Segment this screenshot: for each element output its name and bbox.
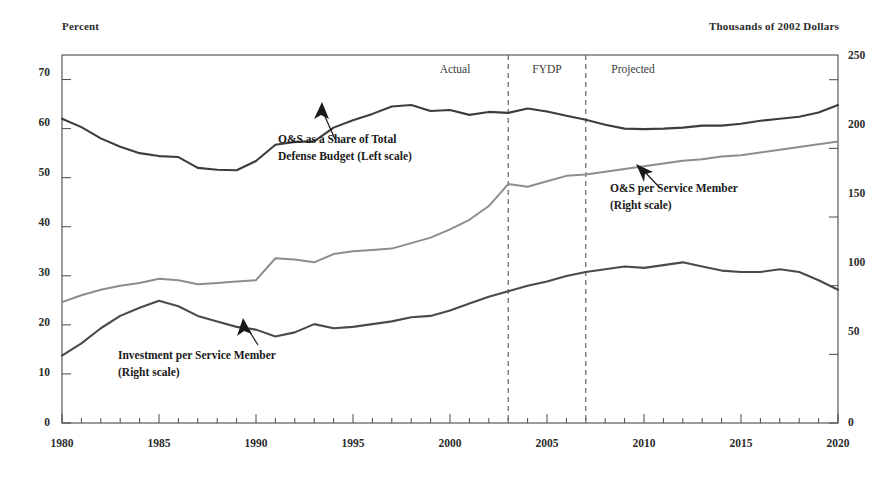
investment-per-member-annotation-line1: Investment per Service Member (118, 347, 276, 364)
series-o-s-per-service-member (62, 142, 838, 303)
plot-svg (0, 0, 891, 477)
os-per-member-annotation: O&S per Service Member (Right scale) (610, 180, 738, 214)
os-per-member-annotation-line2: (Right scale) (610, 197, 738, 214)
investment-per-member-annotation: Investment per Service Member (Right sca… (118, 347, 276, 381)
series-investment-per-service-member (62, 262, 838, 355)
investment-per-member-leader (237, 318, 258, 345)
series-lines (62, 105, 838, 356)
os-share-annotation-line2: Defense Budget (Left scale) (278, 148, 412, 165)
series-o-s-as-a-share-of-total-defense-budget (62, 105, 838, 170)
os-per-member-annotation-line1: O&S per Service Member (610, 180, 738, 197)
chart-figure: Percent Thousands of 2002 Dollars 70 60 … (0, 0, 891, 477)
os-share-annotation-line1: O&S as a Share of Total (278, 131, 412, 148)
os-share-annotation: O&S as a Share of Total Defense Budget (… (278, 131, 412, 165)
investment-per-member-annotation-line2: (Right scale) (118, 364, 276, 381)
